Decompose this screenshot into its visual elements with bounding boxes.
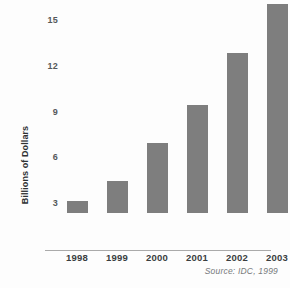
bar [107,181,128,213]
bar [67,201,88,213]
bar [227,53,248,213]
plot-area: Billions of Dollars 3691215 199819992000… [0,0,290,288]
bar-series [0,0,290,251]
source-note: Source: IDC, 1999 [205,266,278,276]
bar [147,143,168,213]
bar [267,4,288,213]
x-axis-tick-label: 2002 [215,252,259,263]
bar-chart: Billions of Dollars 3691215 199819992000… [0,0,290,288]
x-axis-tick-label: 2000 [135,252,179,263]
x-axis-line [45,250,271,251]
x-axis-tick-label: 2003 [255,252,290,263]
x-axis-tick-label: 2001 [175,252,219,263]
x-axis-tick-label: 1999 [95,252,139,263]
x-axis-tick-label: 1998 [55,252,99,263]
bar [187,105,208,213]
